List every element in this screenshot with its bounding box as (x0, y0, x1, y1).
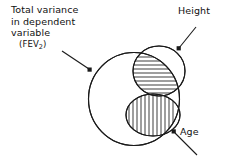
label-total-variance-line3: variable (11, 27, 79, 39)
arrow-total-variance (62, 51, 92, 72)
label-fev-prefix: (FEV (19, 39, 39, 49)
label-total-variance: Total variance in dependent variable (FE… (11, 4, 79, 53)
label-height: Height (178, 5, 210, 17)
label-total-variance-line4: (FEV2) (11, 39, 79, 54)
label-total-variance-line2: in dependent (11, 16, 79, 28)
label-age: Age (180, 126, 199, 138)
venn-diagram-figure: Total variance in dependent variable (FE… (0, 0, 235, 165)
label-fev-suffix: ) (43, 39, 46, 49)
arrow-height (177, 27, 196, 50)
label-total-variance-line1: Total variance (11, 4, 79, 16)
